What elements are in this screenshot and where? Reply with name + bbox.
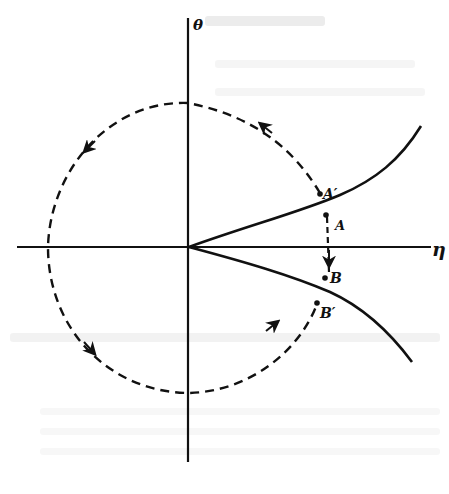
theta-axis-label: θ <box>193 16 203 34</box>
point-b <box>322 275 328 281</box>
label-a: A <box>333 218 345 233</box>
label-b: B <box>329 270 342 286</box>
lower-separatrix-curve <box>189 247 412 362</box>
upper-separatrix-curve <box>189 126 421 247</box>
label-b-prime: B′ <box>319 305 336 321</box>
point-b-prime <box>314 300 320 306</box>
arrow-bottom-right-icon <box>266 323 276 331</box>
phase-diagram: θ η A′ A B B′ <box>0 0 449 494</box>
point-a-prime <box>317 191 323 197</box>
label-a-prime: A′ <box>321 186 338 202</box>
point-a <box>323 212 329 218</box>
eta-axis-label: η <box>432 238 446 260</box>
